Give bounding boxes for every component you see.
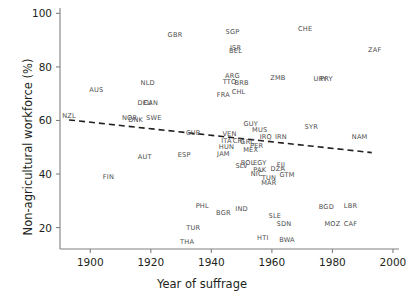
data-point-label: NZL — [62, 112, 76, 120]
data-point-label: FIN — [103, 173, 114, 181]
data-point-label: IRQ — [260, 133, 272, 141]
x-tick-label-1960: 1960 — [259, 256, 286, 268]
data-point-label: SLE — [269, 212, 282, 220]
x-tick-label-1980: 1980 — [319, 256, 346, 268]
data-point-label: MOZ — [324, 220, 340, 228]
data-point-label: CHE — [298, 25, 312, 33]
data-point-label: THA — [180, 238, 194, 246]
data-point-label: JAM — [217, 150, 230, 158]
data-point-label: NAM — [352, 133, 368, 141]
data-point-label: NLD — [141, 79, 155, 87]
data-point-label: ZMB — [270, 74, 285, 82]
x-tick-label-1940: 1940 — [198, 256, 225, 268]
data-point-label: BWA — [279, 236, 295, 244]
x-tick-label-1900: 1900 — [77, 256, 104, 268]
data-point-label: CHL — [232, 88, 246, 96]
data-point-label: URY — [313, 75, 327, 83]
data-point-label: BEL — [229, 47, 242, 55]
data-point-label: BGR — [216, 209, 231, 217]
data-point-label: IND — [235, 205, 248, 213]
y-axis-title: Non-agricultural workforce (%) — [21, 57, 35, 237]
data-point-label: SWE — [146, 114, 161, 122]
data-point-label: PER — [250, 142, 263, 150]
data-point-label: ESP — [178, 151, 191, 159]
data-point-label: AUS — [89, 86, 103, 94]
data-point-label: PHL — [196, 202, 209, 210]
data-point-label: CAF — [344, 220, 358, 228]
data-point-label: CAN — [143, 99, 158, 107]
data-point-label: FRA — [217, 91, 230, 99]
data-point-label: BRB — [234, 79, 248, 87]
data-point-label: AUT — [138, 153, 152, 161]
data-point-label: SGP — [226, 28, 240, 36]
x-tick-label-2000: 2000 — [380, 256, 406, 268]
data-point-label: GBR — [168, 31, 183, 39]
data-point-label: TUR — [186, 224, 200, 232]
data-point-label: SDN — [277, 220, 292, 228]
data-point-label: GTM — [279, 171, 294, 179]
data-point-label: MAR — [261, 179, 276, 187]
data-point-label: SYR — [305, 123, 318, 131]
data-point-label: IRN — [275, 133, 287, 141]
data-point-label: DNK — [128, 116, 143, 124]
x-tick-label-1920: 1920 — [137, 256, 164, 268]
data-point-label: HTI — [257, 234, 269, 242]
data-point-label: CUB — [186, 129, 201, 137]
y-tick-label-100: 100 — [22, 7, 52, 19]
data-point-label: LBR — [344, 202, 357, 210]
x-axis-title: Year of suffrage — [0, 277, 404, 291]
data-point-label: ZAF — [368, 46, 381, 54]
data-point-label: BGD — [319, 203, 334, 211]
